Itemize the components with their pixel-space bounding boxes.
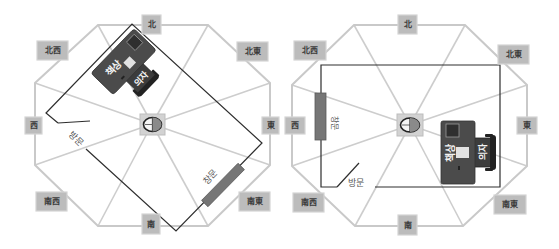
door-label: 방문 [67,130,85,148]
svg-text:北: 北 [148,19,156,29]
left-diagram: 방문 창문 의자 책상 [25,15,279,234]
direction-label-southwest: 南西 [36,192,67,211]
svg-text:北: 北 [404,19,412,29]
compass-icon [140,114,165,135]
svg-text:北東: 北東 [506,49,522,59]
chair-label: 의자 [477,143,488,160]
door-label: 방문 [348,178,364,188]
direction-label-east: 東 [262,117,279,134]
window-label: 창문 [201,168,219,186]
desk: 책상 [441,121,475,184]
svg-text:東: 東 [267,120,275,130]
svg-text:南東: 南東 [247,196,263,206]
svg-text:北西: 北西 [302,45,318,55]
monitor [446,124,459,137]
door-swing [58,121,90,123]
svg-text:南東: 南東 [502,199,518,209]
svg-text:南: 南 [404,220,412,230]
direction-label-north: 北 [398,15,417,34]
direction-label-northwest: 北西 [37,41,68,60]
desk: 의자 책상 [91,29,171,110]
svg-text:東: 東 [523,120,531,130]
direction-label-southeast: 南東 [494,195,526,214]
svg-text:西: 西 [291,121,299,130]
svg-text:北東: 北東 [245,46,261,56]
svg-text:北西: 北西 [45,45,61,55]
svg-text:南西: 南西 [301,197,317,207]
direction-label-west: 西 [285,117,305,134]
direction-label-east: 東 [517,117,537,134]
desk-label: 책상 [444,143,456,162]
direction-label-north: 北 [142,15,161,34]
paper [456,147,469,158]
direction-label-south: 南 [398,215,417,235]
direction-label-northeast: 北東 [237,42,268,61]
chair: 의자 [474,134,496,171]
direction-label-northeast: 北東 [498,45,529,64]
svg-text:南西: 南西 [44,196,60,206]
window [315,93,326,140]
window-label: 창문 [330,116,339,130]
direction-label-southwest: 南西 [293,193,324,212]
direction-label-south: 南 [142,214,160,234]
compass-icon [397,114,423,136]
svg-text:南: 南 [147,219,155,229]
feng-shui-diagrams: 방문 창문 의자 책상 [0,0,559,249]
svg-text:西: 西 [30,121,38,130]
direction-label-northwest: 北西 [294,41,326,60]
direction-label-southeast: 南東 [239,192,270,211]
direction-label-west: 西 [25,117,42,134]
right-diagram: 방문 창문 의자 책상 北 [285,15,537,235]
